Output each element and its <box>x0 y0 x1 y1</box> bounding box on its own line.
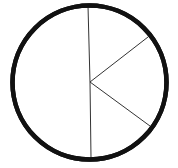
diagram-canvas <box>0 0 178 168</box>
sector-circle-diagram <box>0 0 178 168</box>
